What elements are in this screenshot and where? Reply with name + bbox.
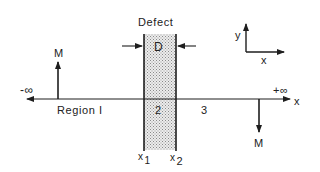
axis-right-end-label: +∞ (273, 85, 288, 96)
magnetization-left-label: M (54, 48, 64, 59)
region-3-label: 3 (201, 105, 208, 116)
boundary-x1-base: x (138, 151, 144, 162)
defect-title: Defect (138, 17, 173, 28)
boundary-x2-base: x (170, 152, 176, 163)
boundary-x2-label: x2 (170, 152, 183, 163)
defect-width-label: D (154, 41, 163, 53)
region-1-label: Region I (57, 105, 103, 116)
axis-left-end-label: -∞ (20, 84, 34, 96)
boundary-x1-subscript: 1 (145, 155, 151, 166)
frame-y-label: y (235, 30, 241, 41)
boundary-x1-label: x1 (138, 152, 151, 162)
region-2-label: 2 (155, 105, 162, 116)
coordinate-frame-icon (246, 24, 284, 52)
axis-x-label: x (294, 96, 300, 107)
boundary-x2-subscript: 2 (177, 155, 184, 167)
magnetization-right-label: M (254, 138, 264, 149)
frame-x-label: x (261, 55, 267, 66)
